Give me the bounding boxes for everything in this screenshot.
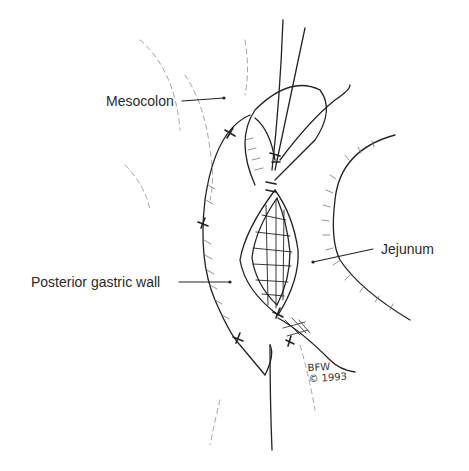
jejunum-leader-dot — [311, 260, 314, 263]
jejunum-hatching — [322, 141, 393, 310]
jejunum-leader — [313, 249, 373, 262]
gastric-wall-leader-dot — [228, 280, 231, 283]
mesocolon-leader — [182, 98, 224, 101]
gastric-wall-outline — [203, 115, 272, 375]
mucosa-crosshatch — [253, 200, 292, 308]
jejunum-outline — [333, 135, 410, 320]
suture-loop — [245, 86, 326, 186]
mesocolon-leader-dot — [222, 96, 225, 99]
lower-crosshatch — [283, 318, 310, 336]
suture-thread-2 — [275, 28, 305, 170]
label-jejunum: Jejunum — [381, 242, 434, 256]
illustration-canvas: Mesocolon Posterior gastric wall Jejunum… — [0, 0, 469, 471]
surgical-illustration — [0, 0, 469, 471]
artist-signature: BFW © 1993 — [307, 361, 347, 385]
label-mesocolon: Mesocolon — [106, 94, 174, 108]
label-posterior-gastric-wall: Posterior gastric wall — [31, 275, 160, 289]
